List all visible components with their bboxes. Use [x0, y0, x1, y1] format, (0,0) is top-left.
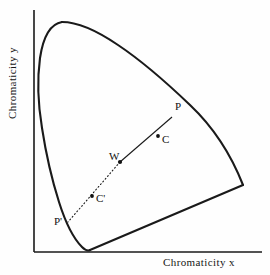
complementary-line-dotted-segment	[68, 162, 120, 222]
plot-canvas	[0, 0, 270, 275]
point-marker-C	[156, 134, 160, 138]
x-axis-label: Chromaticity x	[163, 256, 235, 268]
point-label-C-prime: C'	[96, 192, 105, 204]
purple-line	[90, 185, 243, 250]
y-axis-label: Chromaticity y	[6, 43, 18, 123]
spectral-locus-right-branch	[62, 22, 243, 185]
spectral-locus-left-branch	[38, 22, 90, 250]
point-label-C: C	[162, 133, 169, 145]
chromaticity-diagram-figure: P C W C' P' Chromaticity x Chromaticity …	[0, 0, 270, 275]
point-marker-C-prime	[90, 194, 94, 198]
point-label-P: P	[175, 100, 181, 112]
point-label-W: W	[109, 150, 119, 162]
point-label-P-prime: P'	[54, 215, 62, 227]
